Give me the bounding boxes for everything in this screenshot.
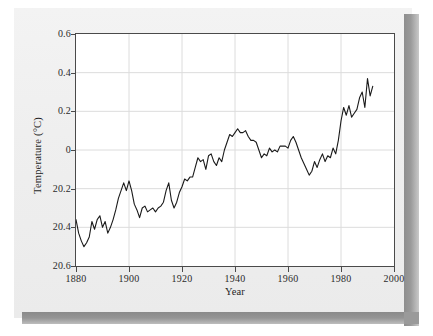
y-tick-label: 0.4 (31, 68, 71, 78)
y-tick-mark (71, 73, 76, 74)
x-tick-label: 2000 (384, 273, 405, 284)
x-tick-label: 1960 (278, 273, 299, 284)
y-tick-mark (71, 150, 76, 151)
x-tick-label: 1900 (119, 273, 140, 284)
x-tick-mark (235, 267, 236, 272)
temperature-line-chart (76, 34, 394, 266)
x-axis-title: Year (75, 286, 395, 297)
data-series-line (76, 78, 373, 246)
y-tick-mark (71, 227, 76, 228)
y-axis-title: Temperature (°C) (32, 81, 43, 231)
x-tick-mark (76, 267, 77, 272)
plot-area (75, 33, 395, 267)
x-tick-label: 1980 (331, 273, 352, 284)
y-tick-mark (71, 34, 76, 35)
y-axis-ticks: 0.60.40.2020.220.420.6 (21, 33, 71, 267)
scanned-figure-page: 0.60.40.2020.220.420.6 18801900192019401… (0, 0, 433, 336)
x-tick-mark (288, 267, 289, 272)
chart-figure: 0.60.40.2020.220.420.6 18801900192019401… (14, 8, 412, 312)
x-tick-label: 1920 (172, 273, 193, 284)
figure-drop-shadow-bottom (22, 312, 412, 324)
y-tick-label: 20.6 (31, 261, 71, 271)
x-tick-label: 1940 (225, 273, 246, 284)
y-tick-mark (71, 189, 76, 190)
y-tick-mark (71, 111, 76, 112)
x-tick-label: 1880 (66, 273, 87, 284)
x-tick-mark (129, 267, 130, 272)
y-tick-label: 0.6 (31, 29, 71, 39)
figure-drop-shadow-corner (404, 312, 419, 324)
x-tick-mark (394, 267, 395, 272)
x-tick-mark (182, 267, 183, 272)
x-tick-mark (341, 267, 342, 272)
